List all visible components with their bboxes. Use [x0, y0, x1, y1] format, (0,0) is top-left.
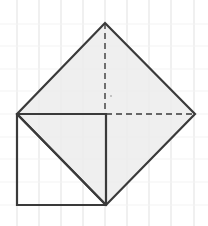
diagram-canvas [0, 0, 208, 226]
center-mark [110, 95, 112, 97]
geometry-figure [0, 0, 208, 226]
